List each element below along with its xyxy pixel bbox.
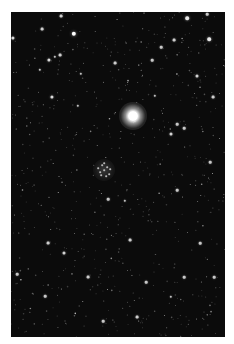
star [160, 46, 163, 49]
star [114, 62, 117, 65]
star-field-photo [11, 12, 225, 337]
star [136, 316, 139, 319]
star [173, 39, 176, 42]
star [212, 96, 215, 99]
star [102, 320, 105, 323]
star [16, 273, 19, 276]
star [176, 189, 179, 192]
star [206, 13, 209, 16]
star [213, 276, 216, 279]
star [199, 242, 202, 245]
star [185, 16, 189, 20]
star-cluster [93, 159, 115, 181]
bright-star [119, 102, 147, 130]
star [41, 28, 44, 31]
star [47, 242, 50, 245]
star [151, 59, 154, 62]
star [209, 161, 212, 164]
star [183, 276, 186, 279]
star [207, 37, 211, 41]
star [176, 123, 179, 126]
star [59, 54, 62, 57]
star [145, 281, 148, 284]
star [87, 276, 90, 279]
star [129, 239, 132, 242]
star [196, 75, 199, 78]
star [60, 15, 63, 18]
star [63, 252, 66, 255]
star [44, 295, 47, 298]
star [170, 133, 173, 136]
star [183, 127, 186, 130]
star [107, 198, 110, 201]
faint-stars-layer [11, 12, 225, 337]
